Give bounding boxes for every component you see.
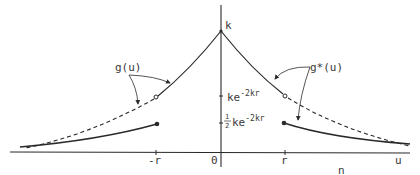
peak-label: k (225, 19, 232, 32)
ke-label: ke-2kr (227, 89, 260, 104)
function-diagram: g(u) g*(u) k ke-2kr 1 2 ke-2kr -r 0 r u … (0, 0, 420, 175)
gstar-arrow-upper (275, 67, 310, 79)
x-tick-label-zero: 0 (211, 154, 218, 167)
x-tick-label-u: u (395, 154, 402, 167)
x-tick-label-r: r (281, 154, 288, 167)
g-dashed-continuation (25, 99, 154, 148)
gstar-filled-dot (282, 121, 287, 126)
gstar-arrow-lower (298, 67, 310, 120)
peak-point (219, 29, 222, 32)
half-numerator: 1 (225, 113, 229, 121)
g-lower-branch (20, 124, 157, 147)
g-label: g(u) (115, 61, 142, 74)
horizontal-axis (10, 152, 410, 153)
g-filled-dot (155, 122, 160, 127)
horizontal-axis-label: n (338, 164, 345, 175)
x-tick-label-neg-r: -r (148, 154, 162, 167)
g-arrow-lower (129, 75, 138, 104)
g-upper-curve (158, 31, 221, 96)
half-ke-label: ke-2kr (232, 114, 265, 129)
g-open-circle (154, 95, 158, 99)
gstar-open-circle (283, 94, 287, 98)
gstar-dashed-continuation (288, 98, 410, 146)
half-denominator: 2 (225, 122, 229, 130)
gstar-upper-curve (221, 31, 283, 94)
g-arrow-upper (129, 75, 170, 83)
gstar-label: g*(u) (310, 61, 343, 74)
